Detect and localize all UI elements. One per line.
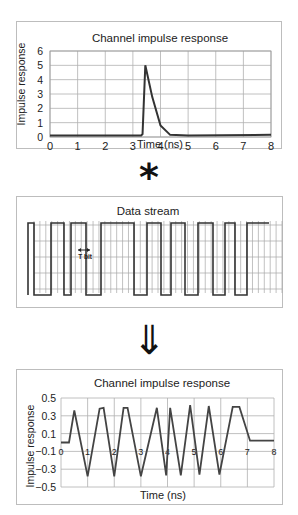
- y-tick: 0: [37, 131, 43, 143]
- bit-period-marker: T bit: [78, 248, 93, 260]
- y-axis-label: Impulse response: [24, 404, 36, 487]
- y-tick: 5: [37, 59, 43, 71]
- impulse-response-panel: Channel impulse response Impulse respons…: [16, 21, 282, 149]
- x-axis-label: Time (ns): [137, 138, 183, 150]
- y-tick: 0.5: [41, 392, 56, 404]
- x-tick: 5: [185, 140, 191, 150]
- y-tick: 6: [37, 45, 43, 57]
- y-tick: −0.1: [35, 445, 56, 457]
- x-tick: 7: [245, 447, 250, 457]
- output-response-panel: Channel impulse response Impulse respons…: [16, 369, 283, 505]
- data-stream-chart: Data stream T bit: [17, 197, 284, 309]
- output-response-chart: Channel impulse response Impulse respons…: [17, 370, 284, 506]
- t-bit-label: T bit: [78, 253, 93, 260]
- x-tick: 2: [102, 140, 108, 150]
- x-tick: 7: [240, 140, 246, 150]
- chart-title: Channel impulse response: [94, 377, 230, 389]
- x-tick: 2: [112, 447, 117, 457]
- convolution-operator-icon: *: [0, 157, 298, 197]
- x-tick: 1: [75, 140, 81, 150]
- x-tick: 3: [130, 140, 136, 150]
- y-tick: 0.1: [41, 428, 56, 440]
- y-tick: −0.3: [35, 463, 56, 475]
- x-tick: 8: [271, 447, 276, 457]
- y-tick: 1: [37, 117, 43, 129]
- x-tick: 0: [58, 447, 63, 457]
- x-axis-label: Time (ns): [140, 489, 186, 501]
- chart-title: Data stream: [117, 205, 180, 217]
- x-tick: 0: [47, 140, 53, 150]
- y-axis-label: Impulse response: [17, 42, 27, 125]
- impulse-response-chart: Channel impulse response Impulse respons…: [17, 22, 283, 150]
- x-tick: 3: [138, 447, 143, 457]
- y-tick: −0.5: [35, 481, 56, 493]
- y-tick: 4: [37, 74, 43, 86]
- x-tick: 8: [268, 140, 274, 150]
- y-tick: 0.3: [41, 410, 56, 422]
- y-tick: 2: [37, 102, 43, 114]
- x-tick: 1: [85, 447, 90, 457]
- data-stream-panel: Data stream T bit: [16, 196, 283, 308]
- down-arrow-icon: ⇓: [0, 318, 298, 362]
- x-tick: 6: [213, 140, 219, 150]
- y-tick: 3: [37, 88, 43, 100]
- chart-title: Channel impulse response: [92, 32, 228, 44]
